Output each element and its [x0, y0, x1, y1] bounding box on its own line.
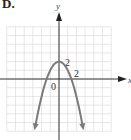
y-axis-arrow-icon [56, 12, 62, 21]
y-axis [56, 12, 62, 140]
x-axis-arrow-icon [118, 76, 127, 82]
parabola-graph: y x 2 2 0 [0, 0, 131, 140]
curve-arrow-right-icon [79, 123, 85, 130]
curve-arrow-left-icon [33, 123, 39, 130]
x-axis-label: x [127, 75, 131, 85]
x-axis [0, 76, 127, 82]
y-axis-label: y [55, 1, 60, 11]
x-tick-label: 2 [74, 68, 79, 79]
origin-label: 0 [51, 81, 56, 92]
